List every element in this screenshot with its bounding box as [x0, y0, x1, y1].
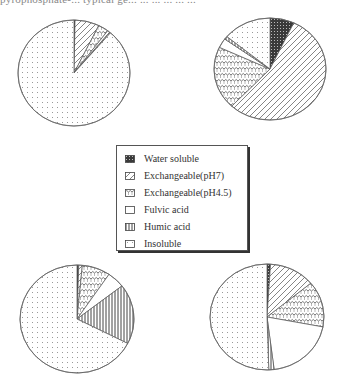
legend-label: Exchangeable(pH4.5) — [144, 187, 231, 198]
legend-label: Exchangeable(pH7) — [144, 170, 224, 181]
scallops-swatch-icon — [125, 189, 135, 197]
legend-item-humic: Humic acid — [125, 218, 247, 235]
vertical-lines-swatch-icon — [125, 223, 135, 231]
dense-dots-swatch-icon — [125, 155, 135, 163]
legend-item-water-soluble: Water soluble — [125, 150, 247, 167]
legend: Water solubleExchangeable(pH7)Exchangeab… — [116, 145, 248, 251]
blank-swatch-icon — [125, 206, 135, 214]
legend-item-exch-ph45: Exchangeable(pH4.5) — [125, 184, 247, 201]
pie-bottom-left — [20, 265, 134, 373]
pie-top-right — [214, 18, 326, 120]
pie-top-left — [18, 20, 130, 126]
legend-item-insoluble: Insoluble — [125, 235, 247, 252]
sparse-dots-swatch-icon — [125, 240, 135, 248]
pie-slice-insoluble — [210, 264, 269, 370]
pie-bottom-right — [210, 264, 324, 370]
diagonal-lines-swatch-icon — [125, 172, 135, 180]
legend-label: Water soluble — [144, 153, 199, 164]
legend-item-fulvic: Fulvic acid — [125, 201, 247, 218]
legend-label: Insoluble — [144, 238, 181, 249]
legend-item-exch-ph7: Exchangeable(pH7) — [125, 167, 247, 184]
legend-label: Humic acid — [144, 221, 190, 232]
legend-label: Fulvic acid — [144, 204, 189, 215]
pie-slice-insoluble — [18, 20, 130, 126]
